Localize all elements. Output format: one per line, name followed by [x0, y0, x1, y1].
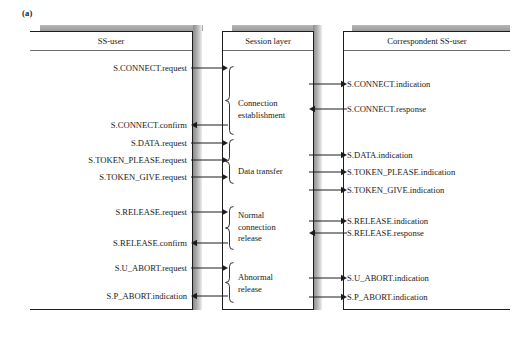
panel-session-layer-body [223, 51, 313, 309]
phase-label: Data transfer [238, 166, 283, 178]
primitive-label: S.U_ABORT.request [34, 262, 187, 274]
phase-label: Abnormal release [238, 272, 273, 295]
left-panel-baseline [30, 309, 193, 310]
phase-label: Connection establishment [238, 98, 285, 121]
primitive-label: S.RELEASE.confirm [34, 237, 187, 249]
primitive-label: S.RELEASE.response [347, 227, 506, 239]
figure-session-service-primitives: (a) SS-user Session layer Correspondent … [0, 0, 525, 346]
primitive-label: S.DATA.request [34, 137, 187, 149]
primitive-label: S.TOKEN_GIVE.request [34, 171, 187, 183]
primitive-label: S.RELEASE.indication [347, 215, 506, 227]
primitive-label: S.P_ABORT.indication [347, 291, 506, 303]
primitive-label: S.TOKEN_GIVE.indication [347, 184, 506, 196]
primitive-label: S.DATA.indication [347, 149, 506, 161]
left-panel-shadow-right [193, 25, 202, 310]
primitive-label: S.RELEASE.request [34, 206, 187, 218]
phase-label: Normal connection release [238, 210, 276, 245]
panel-correspondent-ss-user-title: Correspondent SS-user [344, 32, 510, 51]
panel-session-layer-title: Session layer [223, 32, 313, 51]
primitive-label: S.TOKEN_PLEASE.request [34, 154, 187, 166]
figure-label: (a) [22, 8, 33, 18]
primitive-label: S.CONNECT.response [347, 103, 506, 115]
primitive-label: S.CONNECT.indication [347, 78, 506, 90]
primitive-label: S.TOKEN_PLEASE.indication [347, 166, 506, 178]
primitive-label: S.P_ABORT.indication [34, 290, 187, 302]
primitive-label: S.CONNECT.request [34, 62, 187, 74]
panel-ss-user-title: SS-user [30, 32, 192, 51]
primitive-label: S.CONNECT.confirm [34, 119, 187, 131]
primitive-label: S.U_ABORT.indication [347, 272, 506, 284]
middle-panel-shadow-right [313, 25, 322, 310]
right-panel-baseline [343, 309, 506, 310]
